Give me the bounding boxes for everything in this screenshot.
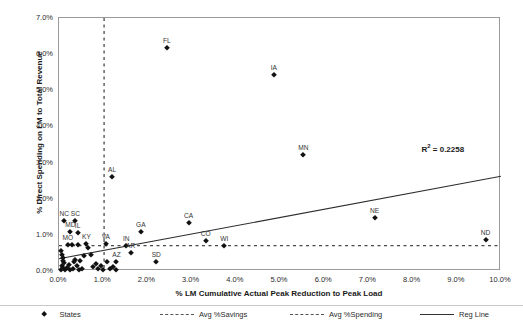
data-point-label: AZ	[112, 251, 120, 258]
legend-item[interactable]: States	[34, 310, 81, 319]
x-tick-label: 7.0%	[359, 275, 376, 284]
data-point-label: AL	[108, 166, 116, 173]
x-tick-label: 2.0%	[138, 275, 155, 284]
r-squared-annotation: R2 = 0.2258	[421, 143, 464, 154]
data-point-label: NE	[370, 207, 379, 214]
data-point-label: AR	[126, 242, 135, 249]
x-tick-label: 5.0%	[270, 275, 287, 284]
data-point-label: KY	[82, 233, 91, 240]
x-tick-label: 1.0%	[94, 275, 111, 284]
x-tick-label: 8.0%	[403, 275, 420, 284]
data-point-label: MO	[63, 234, 74, 241]
legend-solid-line-icon	[420, 314, 454, 315]
data-point-label: VA	[102, 233, 110, 240]
chart-legend: StatesAvg %SavingsAvg %SpendingReg Line	[0, 305, 523, 330]
x-tick-label: 0.0%	[49, 275, 66, 284]
data-point-label: WI	[220, 235, 228, 242]
legend-label: Avg %Savings	[199, 310, 247, 319]
plot-inner: FLIAMNALNCSCCANEMDILGANDCOMOKYVAINWIARSD…	[59, 18, 499, 269]
data-point-label: NC	[60, 210, 70, 217]
legend-dashed-line-icon	[160, 314, 194, 315]
x-tick-label: 3.0%	[182, 275, 199, 284]
scatter-chart: 0.0%1.0%2.0%3.0%4.0%5.0%6.0%7.0% % Direc…	[0, 0, 523, 331]
data-point-label: MN	[298, 144, 308, 151]
legend-item[interactable]: Avg %Savings	[160, 310, 247, 319]
x-tick-label: 9.0%	[447, 275, 464, 284]
data-point-label: CA	[184, 212, 193, 219]
data-point-label: IA	[271, 64, 277, 71]
data-point-label: FL	[163, 37, 171, 44]
x-axis-title: % LM Cumulative Actual Peak Reduction to…	[58, 289, 500, 298]
x-axis-ticks: 0.0%1.0%2.0%3.0%4.0%5.0%6.0%7.0%8.0%9.0%…	[58, 275, 500, 289]
legend-item[interactable]: Avg %Spending	[290, 310, 382, 319]
data-point-label: IL	[75, 222, 81, 229]
legend-item[interactable]: Reg Line	[420, 310, 489, 319]
data-point-label: SD	[152, 251, 161, 258]
x-tick-label: 4.0%	[226, 275, 243, 284]
data-point-label: CO	[201, 230, 211, 237]
legend-marker-icon	[41, 311, 47, 317]
legend-label: States	[59, 310, 80, 319]
data-point-label: GA	[136, 221, 146, 228]
data-point-label: IN	[123, 235, 130, 242]
y-tick-label: 0.0%	[36, 266, 53, 275]
legend-dashed-line-icon	[290, 314, 324, 315]
legend-label: Avg %Spending	[329, 310, 382, 319]
legend-label: Reg Line	[459, 310, 489, 319]
data-point-label: ND	[481, 229, 491, 236]
x-tick-label: 10.0%	[489, 275, 510, 284]
data-point-label: SC	[71, 210, 80, 217]
y-axis-ticks: 0.0%1.0%2.0%3.0%4.0%5.0%6.0%7.0%	[0, 17, 53, 270]
plot-area: FLIAMNALNCSCCANEMDILGANDCOMOKYVAINWIARSD…	[58, 17, 500, 270]
y-axis-title: % Direct Spending on LM to Total Revenue	[35, 8, 44, 258]
x-tick-label: 6.0%	[315, 275, 332, 284]
